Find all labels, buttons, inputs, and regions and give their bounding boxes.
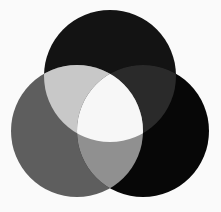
venn-diagram-canvas bbox=[0, 0, 221, 212]
venn-diagram-figure bbox=[0, 0, 221, 212]
